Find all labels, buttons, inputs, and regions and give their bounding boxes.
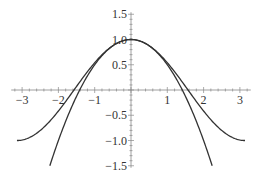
x-tick-label: 3: [237, 93, 243, 107]
x-tick-label: 1: [164, 93, 170, 107]
y-tick-label: 1.5: [112, 7, 127, 21]
x-tick-label: −3: [16, 93, 29, 107]
x-tick-label: −1: [88, 93, 101, 107]
x-tick-label: 2: [201, 93, 207, 107]
y-tick-label: −1.0: [105, 134, 127, 148]
y-tick-label: −1.5: [105, 159, 127, 173]
y-tick-label: −0.5: [105, 108, 127, 122]
chart: −3−2−11231.51.00.5−0.5−1.0−1.5: [0, 0, 258, 182]
y-tick-label: 0.5: [112, 58, 127, 72]
